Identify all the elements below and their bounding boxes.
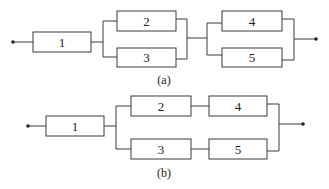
block-2-label: 2 xyxy=(158,99,165,114)
caption-b: (b) xyxy=(157,166,171,180)
join-2 xyxy=(282,19,294,60)
block-5-label: 5 xyxy=(249,50,256,65)
diagram-a: 1 2 3 4 5 (a) xyxy=(11,11,318,87)
split-1 xyxy=(103,21,117,57)
block-3-label: 3 xyxy=(143,50,150,65)
output-terminal-dot xyxy=(314,37,318,41)
block-4-label: 4 xyxy=(249,14,256,29)
diagram-b: 1 2 4 3 5 (b) xyxy=(26,96,305,180)
caption-a: (a) xyxy=(157,73,170,87)
block-3-label: 3 xyxy=(158,142,165,157)
split-2 xyxy=(207,23,222,55)
join-1 xyxy=(176,19,187,59)
block-2-label: 2 xyxy=(143,14,150,29)
block-1-label: 1 xyxy=(59,35,66,50)
output-terminal-dot xyxy=(301,122,305,126)
block-1-label: 1 xyxy=(72,119,79,134)
join xyxy=(267,104,279,151)
reliability-block-diagrams: 1 2 3 4 5 (a) 1 2 4 xyxy=(0,0,329,189)
block-5-label: 5 xyxy=(235,142,242,157)
split xyxy=(116,106,131,149)
block-4-label: 4 xyxy=(235,99,242,114)
